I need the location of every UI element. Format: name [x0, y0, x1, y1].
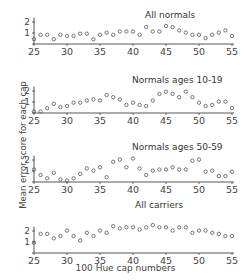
data-point: [118, 227, 121, 230]
data-point: [164, 168, 167, 171]
data-point: [125, 103, 128, 106]
data-point: [85, 99, 88, 102]
data-point: [79, 32, 82, 35]
data-point: [131, 30, 134, 33]
x-tick-label: 25: [28, 115, 40, 126]
data-point: [230, 34, 233, 37]
data-point: [98, 33, 101, 36]
panel-title: All normals: [145, 10, 196, 20]
data-point: [118, 30, 121, 33]
data-point: [224, 100, 227, 103]
data-point: [39, 33, 42, 36]
data-point: [158, 226, 161, 229]
data-point: [164, 24, 167, 27]
data-point: [52, 171, 55, 174]
data-point: [112, 160, 115, 163]
data-point: [151, 169, 154, 172]
data-point: [184, 31, 187, 34]
data-point: [191, 231, 194, 234]
data-point: [92, 38, 95, 41]
data-point: [85, 167, 88, 170]
data-point: [65, 104, 68, 107]
panel-title: Normals ages 10-19: [132, 75, 223, 85]
data-point: [98, 166, 101, 169]
panel-title: Normals ages 50-59: [132, 142, 223, 152]
x-tick-label: 35: [94, 46, 106, 57]
data-point: [52, 102, 55, 105]
data-point: [46, 232, 49, 235]
data-point: [85, 231, 88, 234]
data-point: [59, 105, 62, 108]
data-point: [217, 174, 220, 177]
data-point: [39, 232, 42, 235]
data-point: [211, 33, 214, 36]
data-point: [230, 234, 233, 237]
y-tick-label: 1: [24, 28, 30, 38]
x-tick-label: 35: [94, 184, 106, 195]
x-tick-label: 35: [94, 115, 106, 126]
data-point: [191, 159, 194, 162]
data-point: [125, 226, 128, 229]
x-tick-label: 25: [28, 184, 40, 195]
x-tick-label: 55: [226, 184, 238, 195]
data-point: [178, 226, 181, 229]
x-tick-label: 40: [127, 115, 139, 126]
data-point: [151, 30, 154, 33]
data-point: [184, 226, 187, 229]
x-tick-label: 50: [193, 184, 205, 195]
data-point: [158, 168, 161, 171]
data-point: [171, 92, 174, 95]
data-point: [197, 158, 200, 161]
data-point: [52, 38, 55, 41]
data-point: [131, 101, 134, 104]
data-point: [164, 226, 167, 229]
data-point: [164, 90, 167, 93]
panel-title: All carriers: [135, 200, 183, 210]
data-point: [151, 223, 154, 226]
data-point: [98, 99, 101, 102]
x-tick-label: 30: [61, 115, 73, 126]
data-point: [178, 29, 181, 32]
data-point: [72, 177, 75, 180]
data-point: [92, 98, 95, 101]
data-point: [158, 30, 161, 33]
data-point: [59, 234, 62, 237]
y-tick-label: 2: [24, 17, 30, 27]
x-axis-label: 100 Hue cap numbers: [0, 263, 251, 273]
data-point: [105, 93, 108, 96]
y-tick-label: 1: [24, 237, 30, 247]
x-tick-label: 45: [160, 46, 172, 57]
data-point: [230, 107, 233, 110]
data-point: [217, 232, 220, 235]
data-point: [211, 169, 214, 172]
x-tick-label: 30: [61, 46, 73, 57]
data-point: [79, 172, 82, 175]
data-point: [65, 229, 68, 232]
data-point: [171, 166, 174, 169]
data-point: [145, 173, 148, 176]
x-tick-label: 30: [61, 184, 73, 195]
data-point: [79, 101, 82, 104]
x-tick-label: 50: [193, 115, 205, 126]
data-point: [224, 234, 227, 237]
data-point: [85, 32, 88, 35]
x-tick-label: 25: [28, 46, 40, 57]
data-point: [178, 168, 181, 171]
data-point: [217, 31, 220, 34]
data-point: [59, 33, 62, 36]
data-point: [197, 229, 200, 232]
data-point: [105, 231, 108, 234]
data-point: [224, 174, 227, 177]
data-point: [72, 101, 75, 104]
x-tick-label: 55: [226, 115, 238, 126]
data-point: [131, 226, 134, 229]
data-point: [211, 103, 214, 106]
x-tick-label: 40: [127, 46, 139, 57]
data-point: [197, 33, 200, 36]
data-point: [138, 33, 141, 36]
data-point: [39, 173, 42, 176]
data-point: [138, 228, 141, 231]
data-point: [171, 229, 174, 232]
y-tick-label: 2: [24, 226, 30, 236]
data-point: [217, 100, 220, 103]
